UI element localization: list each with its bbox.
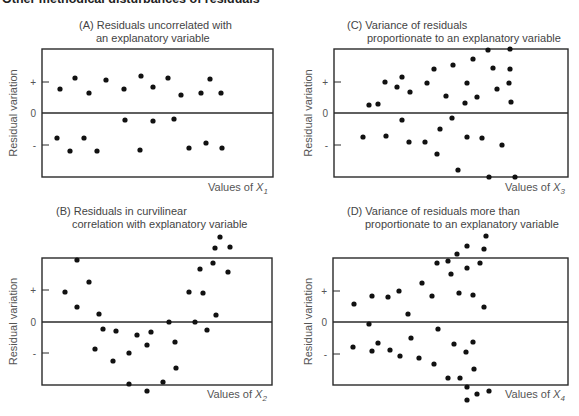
data-point — [192, 319, 197, 324]
data-point — [126, 381, 131, 386]
data-point — [96, 311, 101, 316]
data-point — [474, 391, 479, 396]
data-point — [351, 301, 356, 306]
data-point — [407, 89, 412, 94]
data-point — [385, 294, 390, 299]
data-point — [399, 117, 404, 122]
data-point — [383, 133, 388, 138]
data-point — [144, 388, 149, 393]
data-point — [207, 76, 212, 81]
y-tick-label: + — [322, 77, 328, 88]
panel-title-line: an explanatory variable — [96, 32, 210, 44]
panel-title-line: proportionate to an explanatory variable — [365, 218, 559, 230]
data-point — [424, 80, 429, 85]
data-point — [217, 234, 222, 239]
data-point — [360, 134, 365, 139]
x-axis-label: Values of X1 — [208, 181, 268, 196]
data-point — [434, 260, 439, 265]
panel-a: (A) Residuals uncorrelated withan explan… — [7, 19, 273, 196]
data-point — [483, 233, 488, 238]
data-point — [481, 246, 486, 251]
data-point — [186, 145, 191, 150]
data-point — [160, 379, 165, 384]
data-point — [464, 243, 469, 248]
data-point — [508, 99, 513, 104]
data-point — [445, 258, 450, 263]
x-axis-label: Values of X4 — [505, 388, 565, 403]
data-point — [457, 375, 462, 380]
data-point — [396, 288, 401, 293]
data-point — [435, 326, 440, 331]
data-point — [507, 46, 512, 51]
data-point — [81, 135, 86, 140]
x-axis-label: Values of X2 — [207, 388, 267, 403]
data-point — [486, 174, 491, 179]
data-point — [490, 65, 495, 70]
panel-title-line: (A) Residuals uncorrelated with — [79, 19, 232, 31]
data-point — [470, 292, 475, 297]
data-point — [350, 344, 355, 349]
data-point — [449, 115, 454, 120]
data-point — [210, 260, 215, 265]
data-point — [204, 327, 209, 332]
x-axis-label: Values of X3 — [505, 181, 565, 196]
residual-plots-figure: (A) Residuals uncorrelated withan explan… — [0, 0, 579, 416]
data-point — [470, 339, 475, 344]
data-point — [166, 319, 171, 324]
data-point — [431, 361, 436, 366]
y-tick-label: 0 — [30, 317, 36, 328]
data-point — [470, 56, 475, 61]
data-point — [134, 332, 139, 337]
data-point — [126, 350, 131, 355]
y-tick-label: 0 — [322, 108, 328, 119]
data-point — [437, 126, 442, 131]
data-point — [212, 245, 217, 250]
y-tick-label: - — [325, 140, 328, 151]
data-point — [462, 100, 467, 105]
data-point — [225, 269, 230, 274]
data-point — [92, 346, 97, 351]
data-point — [57, 86, 62, 91]
data-point — [86, 279, 91, 284]
data-point — [448, 271, 453, 276]
data-point — [100, 326, 105, 331]
data-point — [445, 375, 450, 380]
y-axis-label: Residual variation — [302, 278, 314, 365]
data-point — [150, 84, 155, 89]
data-point — [165, 75, 170, 80]
data-point — [387, 347, 392, 352]
y-tick-label: - — [33, 140, 36, 151]
data-point — [369, 348, 374, 353]
data-point — [86, 90, 91, 95]
data-point — [406, 139, 411, 144]
data-point — [213, 312, 218, 317]
data-point — [200, 290, 205, 295]
data-point — [375, 101, 380, 106]
data-point — [172, 339, 177, 344]
data-point — [219, 145, 224, 150]
data-point — [481, 304, 486, 309]
data-point — [178, 92, 183, 97]
data-point — [74, 257, 79, 262]
data-point — [197, 266, 202, 271]
y-tick-label: + — [321, 286, 327, 297]
data-point — [464, 384, 469, 389]
data-point — [494, 86, 499, 91]
panel-c: (C) Variance of residualsproportionate t… — [302, 19, 568, 196]
data-point — [74, 304, 79, 309]
data-point — [382, 79, 387, 84]
y-tick-label: 0 — [30, 108, 36, 119]
data-point — [103, 77, 108, 82]
data-point — [431, 66, 436, 71]
data-point — [408, 335, 413, 340]
data-point — [67, 148, 72, 153]
data-point — [369, 293, 374, 298]
data-point — [72, 75, 77, 80]
data-point — [366, 321, 371, 326]
data-point — [499, 142, 504, 147]
data-point — [110, 358, 115, 363]
data-point — [477, 260, 482, 265]
data-point — [507, 66, 512, 71]
data-point — [198, 90, 203, 95]
data-point — [464, 397, 469, 402]
